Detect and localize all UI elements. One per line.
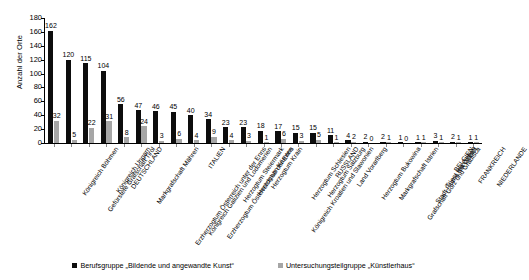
y-axis-tick-labels: 020406080100120140160180 [20, 0, 42, 150]
bar-value-label-series-2: 4 [225, 132, 237, 139]
bar-series-1 [171, 112, 176, 143]
bar-group: 176 [272, 18, 289, 143]
bar-series-2 [159, 141, 164, 143]
bar-series-1 [83, 63, 88, 143]
x-axis-label: ITALIEN [207, 146, 226, 170]
bar-value-label-series-2: 6 [278, 130, 290, 137]
bar-series-2 [456, 142, 461, 143]
bar-series-2 [194, 140, 199, 143]
bar-series-1 [118, 104, 123, 143]
bar-series-2 [211, 137, 216, 143]
bar-value-label-series-2: 3 [243, 132, 255, 139]
bar-value-label-series-1: 17 [272, 123, 284, 130]
y-tick-mark [41, 115, 44, 116]
bar-value-label-series-2: 1 [453, 134, 465, 141]
plot-area: 1623212051152210431568472446345640434923… [45, 18, 482, 143]
x-tick-mark [246, 144, 247, 147]
bar-value-label-series-1: 23 [220, 119, 232, 126]
bar-series-1 [415, 142, 420, 143]
bar-series-2 [386, 142, 391, 143]
bar-series-2 [89, 128, 94, 143]
bar-series-1 [48, 31, 53, 144]
bar-series-2 [439, 142, 444, 143]
bar-group: 155 [307, 18, 324, 143]
x-tick-mark [124, 144, 125, 147]
y-tick-mark [41, 32, 44, 33]
x-tick-mark [54, 144, 55, 147]
bar-group: 111 [325, 18, 342, 143]
bar-series-2 [54, 121, 59, 143]
legend-swatch-icon [278, 263, 283, 268]
x-tick-mark [403, 144, 404, 147]
bar-value-label-series-2: 5 [313, 131, 325, 138]
bar-group: 20 [360, 18, 377, 143]
bar-value-label-series-1: 23 [237, 119, 249, 126]
bar-series-1 [398, 142, 403, 143]
bar-group: 16232 [45, 18, 62, 143]
bar-series-1 [468, 142, 473, 143]
bar-group: 11 [412, 18, 429, 143]
bar-value-label-series-1: 47 [132, 102, 144, 109]
bar-series-2 [176, 139, 181, 143]
x-tick-mark [456, 144, 457, 147]
bar-group: 31 [430, 18, 447, 143]
x-tick-mark [264, 144, 265, 147]
bar-value-label-series-1: 120 [62, 51, 74, 58]
x-tick-mark [211, 144, 212, 147]
legend-label: Untersuchungsteilgruppe „Künstlerhaus“ [286, 261, 415, 270]
x-tick-mark [333, 144, 334, 147]
y-tick-mark [41, 101, 44, 102]
bar-value-label-series-1: 104 [97, 62, 109, 69]
bar-series-2 [299, 141, 304, 143]
bar-value-label-series-2: 8 [121, 129, 133, 136]
bar-value-label-series-2: 1 [470, 134, 482, 141]
x-axis-tick-labels: Königreich BöhmenGefürstete Grafschaft T… [0, 146, 487, 251]
x-tick-mark [71, 144, 72, 147]
bar-group: 463 [150, 18, 167, 143]
bar-value-label-series-1: 40 [185, 107, 197, 114]
bar-value-label-series-2: 0 [365, 135, 377, 142]
bar-group: 11 [465, 18, 482, 143]
bar-value-label-series-2: 0 [400, 135, 412, 142]
bar-value-label-series-2: 4 [190, 132, 202, 139]
bar-series-2 [72, 140, 77, 143]
x-tick-mark [176, 144, 177, 147]
bar-value-label-series-1: 15 [307, 124, 319, 131]
bar-group: 11522 [80, 18, 97, 143]
bar-value-label-series-2: 3 [295, 132, 307, 139]
bar-series-1 [345, 140, 350, 143]
bar-series-1 [363, 142, 368, 143]
y-tick-mark [41, 46, 44, 47]
bar-series-2 [229, 140, 234, 143]
bar-group: 404 [185, 18, 202, 143]
bar-series-1 [101, 71, 106, 143]
x-axis-label: Markgrafschaft Mähren [156, 146, 200, 205]
x-tick-mark [316, 144, 317, 147]
bar-value-label-series-1: 162 [45, 22, 57, 29]
bar-value-label-series-2: 1 [260, 134, 272, 141]
bar-group: 349 [202, 18, 219, 143]
bar-value-label-series-1: 15 [290, 124, 302, 131]
bar-group: 153 [290, 18, 307, 143]
bar-series-2 [141, 126, 146, 143]
bar-series-1 [450, 142, 455, 143]
bar-group: 42 [342, 18, 359, 143]
bar-series-2 [281, 139, 286, 143]
bar-value-label-series-1: 11 [325, 127, 337, 134]
y-tick-mark [41, 129, 44, 130]
bar-value-label-series-2: 1 [330, 134, 342, 141]
x-tick-mark [229, 144, 230, 147]
y-tick-mark [41, 143, 44, 144]
x-tick-mark [89, 144, 90, 147]
legend-label: Berufsgruppe „Bildende und angewandte Ku… [80, 261, 233, 270]
bar-series-2 [124, 137, 129, 143]
bar-value-label-series-2: 1 [418, 134, 430, 141]
bar-value-label-series-2: 3 [156, 132, 168, 139]
legend-item-2: Untersuchungsteilgruppe „Künstlerhaus“ [278, 261, 415, 270]
bar-group: 456 [167, 18, 184, 143]
bar-value-label-series-1: 46 [150, 103, 162, 110]
y-tick-mark [41, 87, 44, 88]
bar-group: 21 [377, 18, 394, 143]
bar-value-label-series-2: 24 [138, 118, 150, 125]
